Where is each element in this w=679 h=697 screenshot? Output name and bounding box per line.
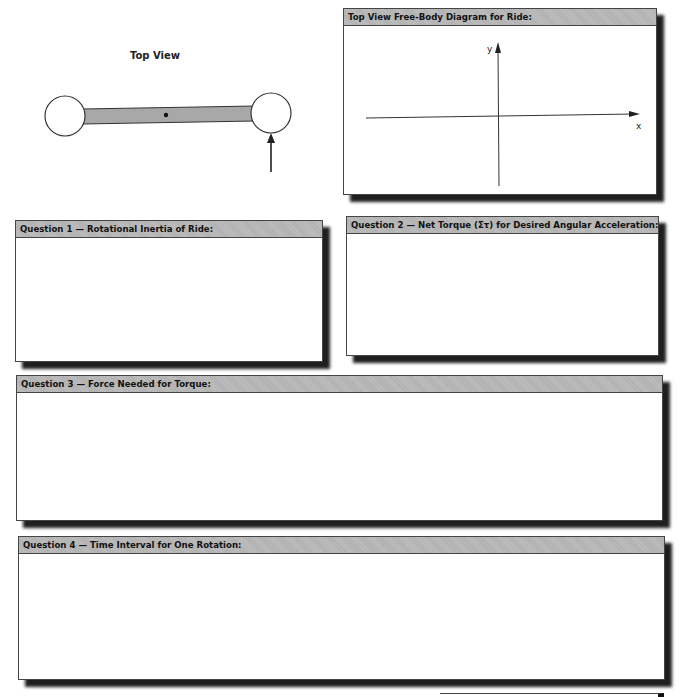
y-axis xyxy=(495,42,501,186)
question-3-answer-area[interactable] xyxy=(17,393,662,520)
question-4-header: Question 4 — Time Interval for One Rotat… xyxy=(19,537,664,554)
force-arrow-icon xyxy=(267,133,275,172)
x-axis-label: x xyxy=(636,121,642,131)
question-2-box: Question 2 — Net Torque (Στ) for Desired… xyxy=(346,216,659,356)
x-axis xyxy=(366,111,640,118)
question-1-answer-area[interactable] xyxy=(16,238,322,361)
question-4-answer-area[interactable] xyxy=(19,554,664,679)
right-seat-circle xyxy=(251,93,291,133)
top-view-title: Top View xyxy=(130,50,180,61)
question-4-box: Question 4 — Time Interval for One Rotat… xyxy=(18,536,665,680)
connecting-bar xyxy=(82,106,255,124)
question-1-header: Question 1 — Rotational Inertia of Ride: xyxy=(16,221,322,238)
y-axis-label: y xyxy=(487,44,493,54)
top-view-diagram xyxy=(40,85,300,184)
next-box-edge xyxy=(440,693,664,697)
question-3-box: Question 3 — Force Needed for Torque: xyxy=(16,375,663,521)
question-2-header: Question 2 — Net Torque (Στ) for Desired… xyxy=(347,217,658,234)
left-seat-circle xyxy=(45,96,85,136)
question-2-answer-area[interactable] xyxy=(347,234,658,355)
question-1-box: Question 1 — Rotational Inertia of Ride: xyxy=(15,220,323,362)
fbd-box-header: Top View Free-Body Diagram for Ride: xyxy=(344,9,656,26)
question-3-header: Question 3 — Force Needed for Torque: xyxy=(17,376,662,393)
pivot-dot xyxy=(164,113,168,117)
fbd-box: Top View Free-Body Diagram for Ride: y x xyxy=(343,8,657,195)
fbd-drawing-area[interactable]: y x xyxy=(344,26,656,194)
